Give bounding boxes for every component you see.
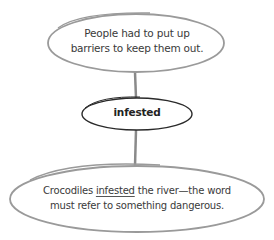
bottom-line-1-before: Crocodiles	[43, 185, 96, 196]
underlined-word: infested	[96, 185, 135, 196]
center-node-label: infested	[92, 106, 182, 118]
top-node-line-1: People had to put up	[60, 26, 214, 41]
bottom-node-line-2: must refer to something dangerous.	[22, 198, 252, 213]
connector-top-to-center	[135, 72, 136, 98]
top-node-line-2: barriers to keep them out.	[60, 41, 214, 56]
connector-center-to-bottom	[135, 130, 136, 166]
top-node-text: People had to put up barriers to keep th…	[60, 26, 214, 56]
bottom-node-line-1: Crocodiles infested the river—the word	[22, 183, 252, 198]
bottom-line-1-after: the river—the word	[135, 185, 231, 196]
bottom-node-text: Crocodiles infested the river—the word m…	[22, 183, 252, 213]
